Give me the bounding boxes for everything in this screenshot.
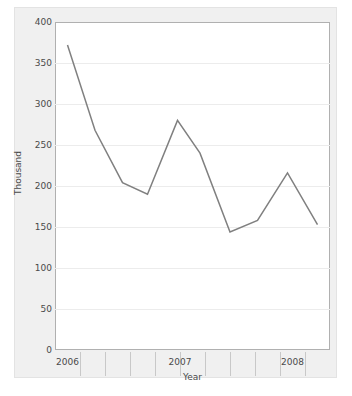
x-tick-label-layer: 200620072008 (0, 0, 352, 396)
y-axis-title: Thousand (13, 143, 23, 203)
bottom-cropped-text (16, 384, 196, 392)
x-axis-title: Year (55, 372, 330, 382)
x-tick-label: 2006 (38, 358, 98, 367)
x-tick-label: 2008 (263, 358, 323, 367)
chart-figure: 400350300250200150100500 200620072008 Th… (0, 0, 352, 396)
x-tick-label: 2007 (150, 358, 210, 367)
